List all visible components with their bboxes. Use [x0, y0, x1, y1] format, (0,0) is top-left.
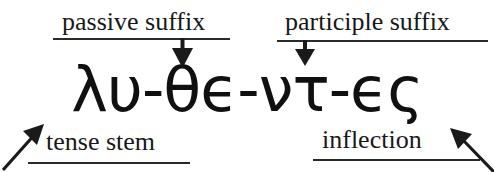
annotation-rule-tense-stem: [28, 162, 190, 164]
annotation-label-inflection: inflection: [322, 127, 422, 153]
annotation-rule-participle-suffix: [277, 40, 488, 42]
annotation-rule-inflection: [313, 159, 480, 161]
annotation-label-tense-stem: tense stem: [46, 129, 155, 155]
up-left-arrow-icon-inflection: [450, 128, 494, 172]
annotation-label-participle-suffix: participle suffix: [285, 9, 450, 35]
greek-word-segmented: λυ-θϵ-ντ-ϵς: [0, 55, 494, 125]
annotation-label-passive-suffix: passive suffix: [62, 9, 205, 35]
annotation-rule-passive-suffix: [53, 38, 230, 40]
morpheme-analysis-figure: passive suffix participle suffix λυ-θϵ-ν…: [0, 0, 494, 172]
